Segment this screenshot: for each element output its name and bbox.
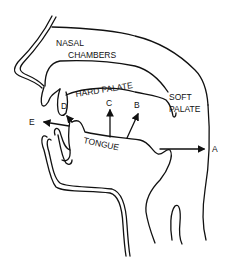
label-palate: PALATE — [169, 104, 201, 114]
label-a: A — [212, 144, 218, 154]
label-b: B — [134, 100, 140, 110]
jaw-outline-inner — [47, 139, 130, 256]
label-chambers: CHAMBERS — [68, 50, 117, 60]
label-e: E — [29, 117, 35, 127]
nose-outline-inner — [20, 17, 56, 86]
label-c: C — [106, 98, 112, 108]
label-nasal: NASAL — [56, 38, 84, 48]
arrow-b — [127, 114, 138, 138]
jaw-outline — [42, 136, 126, 256]
arrow-e — [44, 122, 69, 126]
label-hard-palate: HARD PALATE — [75, 80, 134, 99]
label-soft: SOFT — [169, 92, 192, 102]
pharynx-wall — [203, 105, 209, 240]
epiglottis — [171, 205, 182, 244]
vocal-tract-diagram: NASAL CHAMBERS HARD PALATE SOFT PALATE T… — [0, 0, 228, 257]
label-tongue: TONGUE — [83, 135, 121, 152]
label-d: D — [61, 101, 67, 111]
